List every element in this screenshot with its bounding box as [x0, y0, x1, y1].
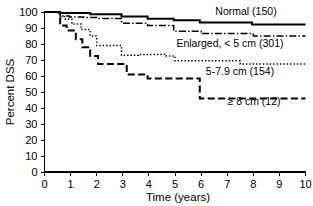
series-label-1: Enlarged, < 5 cm (301) — [176, 37, 283, 49]
kaplan-meier-chart: 1009080706050403020100 012345678910 Norm… — [0, 0, 313, 206]
y-axis-tick-labels: 1009080706050403020100 — [19, 6, 37, 178]
x-tick-label: 7 — [224, 178, 230, 190]
y-tick-label: 40 — [25, 102, 37, 114]
series-label-3: ≥ 8 cm (12) — [227, 95, 280, 107]
x-tick-label: 6 — [198, 178, 204, 190]
x-tick-label: 1 — [68, 178, 74, 190]
y-tick-label: 100 — [19, 6, 37, 18]
y-tick-label: 0 — [31, 166, 37, 178]
y-tick-label: 70 — [25, 54, 37, 66]
x-tick-label: 0 — [41, 178, 47, 190]
y-tick-label: 30 — [25, 118, 37, 130]
x-tick-label: 5 — [172, 178, 178, 190]
series-curves — [45, 12, 306, 98]
x-axis-ticks — [45, 172, 306, 176]
x-tick-label: 3 — [120, 178, 126, 190]
x-axis-tick-labels: 012345678910 — [41, 178, 311, 190]
x-tick-label: 4 — [146, 178, 152, 190]
x-tick-label: 10 — [299, 178, 311, 190]
x-tick-label: 8 — [250, 178, 256, 190]
chart-svg: 1009080706050403020100 012345678910 Norm… — [0, 0, 313, 206]
x-axis-title: Time (years) — [146, 191, 210, 203]
y-tick-label: 50 — [25, 86, 37, 98]
y-tick-label: 60 — [25, 70, 37, 82]
series-label-2: 5-7.9 cm (154) — [206, 65, 274, 77]
x-tick-label: 2 — [94, 178, 100, 190]
y-tick-label: 20 — [25, 134, 37, 146]
y-tick-label: 80 — [25, 38, 37, 50]
y-tick-label: 10 — [25, 150, 37, 162]
y-tick-label: 90 — [25, 22, 37, 34]
y-axis-title: Percent DSS — [4, 58, 16, 125]
y-axis-ticks — [41, 12, 45, 172]
series-label-0: Normal (150) — [215, 5, 276, 17]
x-tick-label: 9 — [276, 178, 282, 190]
